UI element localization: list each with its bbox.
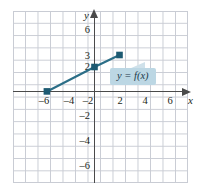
endpoint-marker-right (116, 52, 123, 59)
function-plot (0, 0, 202, 188)
point-marker-intercept (91, 64, 98, 71)
graph-figure: –6 –4 –2 2 4 6 6 3 2 –2 –4 –6 x y y = f(… (0, 0, 202, 188)
function-label: y = f(x) (110, 68, 156, 85)
function-line-segment (47, 55, 120, 92)
endpoint-marker-left (44, 88, 51, 95)
